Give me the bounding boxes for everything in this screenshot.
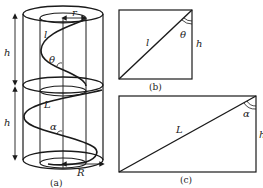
label-h-c: h — [259, 129, 263, 140]
theta-arc — [57, 63, 62, 66]
label-alpha: α — [50, 121, 57, 132]
label-theta: θ — [49, 54, 55, 65]
upper-helix-path — [41, 20, 86, 86]
diagonal-L — [119, 96, 256, 172]
caption-a: (a) — [50, 178, 62, 188]
label-l-b: l — [146, 37, 149, 48]
theta-arc-b-1 — [184, 18, 192, 21]
label-l: l — [44, 29, 47, 40]
panel-b: l θ h (b) — [119, 10, 202, 92]
panel-a: r R l L θ α h h (a) — [4, 6, 103, 188]
helix-cylinder-diagram: r R l L θ α h h (a) l θ h (b) L — [0, 0, 263, 188]
alpha-arc-c-1 — [247, 101, 256, 106]
label-L: L — [43, 99, 51, 110]
label-r: r — [72, 7, 78, 18]
label-R: R — [76, 167, 85, 178]
caption-b: (b) — [149, 82, 162, 92]
label-h-lower: h — [4, 117, 10, 128]
label-theta-b: θ — [180, 29, 186, 40]
label-alpha-c: α — [243, 108, 250, 119]
caption-c: (c) — [180, 175, 192, 185]
panel-c: L α h (c) — [119, 96, 263, 185]
label-h-b: h — [196, 38, 202, 49]
diagonal-l — [119, 10, 192, 79]
label-L-c: L — [175, 124, 183, 135]
label-h-upper: h — [4, 47, 10, 58]
